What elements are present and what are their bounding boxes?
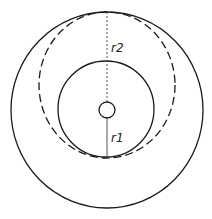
r1-label: r1 [111,131,124,145]
middle-circle [58,61,154,157]
r2-label: r2 [111,41,124,55]
concentric-circles-diagram: r2 r1 [0,0,212,219]
center-circle [99,102,115,118]
